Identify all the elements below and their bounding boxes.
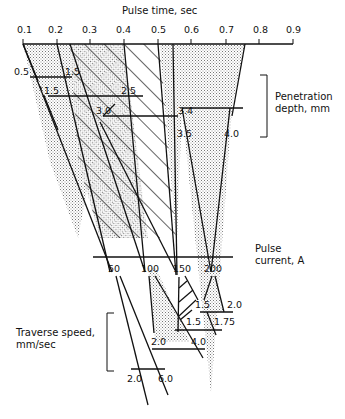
svg-text:1.5: 1.5	[186, 316, 201, 327]
nomogram: Pulse time, sec 0.1 0.2 0.3 0.4 0.5 0.6 …	[0, 0, 345, 419]
pulse-time-title: Pulse time, sec	[122, 5, 197, 16]
svg-text:3.0: 3.0	[96, 105, 111, 116]
svg-text:3.5: 3.5	[177, 128, 192, 139]
svg-text:mm/sec: mm/sec	[16, 339, 56, 350]
svg-text:1.5: 1.5	[65, 66, 80, 77]
tick-0.9: 0.9	[286, 24, 301, 35]
svg-text:2.5: 2.5	[121, 85, 136, 96]
svg-text:2.0: 2.0	[227, 299, 242, 310]
penetration-bracket	[260, 75, 267, 137]
svg-text:Pulse: Pulse	[255, 243, 281, 254]
svg-text:2.0: 2.0	[127, 373, 142, 384]
svg-text:1.5: 1.5	[44, 85, 59, 96]
svg-text:Penetration: Penetration	[275, 91, 333, 102]
svg-text:3.4: 3.4	[178, 105, 193, 116]
tick-0.1: 0.1	[17, 24, 32, 35]
svg-text:4.0: 4.0	[224, 128, 239, 139]
svg-text:100: 100	[141, 263, 159, 274]
tick-0.8: 0.8	[253, 24, 268, 35]
svg-text:50: 50	[108, 263, 120, 274]
svg-text:4.0: 4.0	[191, 336, 206, 347]
svg-text:0.5: 0.5	[14, 66, 29, 77]
tick-0.2: 0.2	[48, 24, 63, 35]
lower-hatch	[179, 281, 196, 316]
tick-0.5: 0.5	[151, 24, 166, 35]
svg-text:1.5: 1.5	[195, 299, 210, 310]
tick-0.4: 0.4	[116, 24, 131, 35]
svg-text:150: 150	[173, 263, 191, 274]
tick-0.3: 0.3	[82, 24, 97, 35]
tick-0.6: 0.6	[184, 24, 199, 35]
svg-text:6.0: 6.0	[158, 373, 173, 384]
svg-text:2.0: 2.0	[151, 336, 166, 347]
pulse-time-axis: Pulse time, sec 0.1 0.2 0.3 0.4 0.5 0.6 …	[17, 5, 301, 44]
svg-text:depth, mm: depth, mm	[275, 103, 330, 114]
traverse-bracket	[107, 313, 114, 371]
tick-0.7: 0.7	[219, 24, 234, 35]
svg-text:1.75: 1.75	[214, 316, 235, 327]
svg-text:current, A: current, A	[255, 255, 304, 266]
svg-text:Traverse speed,: Traverse speed,	[15, 327, 95, 338]
svg-text:200: 200	[204, 263, 222, 274]
